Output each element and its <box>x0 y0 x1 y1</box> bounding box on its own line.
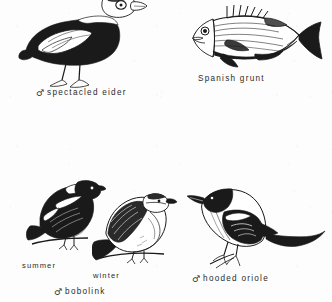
figure-bobolink-winter <box>92 176 178 272</box>
male-symbol-icon: ♂ <box>54 288 62 297</box>
male-symbol-icon: ♂ <box>36 89 44 98</box>
caption-bobolink-summer: summer <box>22 262 56 270</box>
caption-text-bobolink: bobolink <box>65 287 106 296</box>
caption-hooded-oriole: ♂hooded oriole <box>192 274 269 283</box>
figure-spectacled-eider <box>18 0 148 88</box>
caption-text-eider: spectacled eider <box>47 88 127 97</box>
caption-spanish-grunt: Spanish grunt <box>198 75 265 83</box>
figure-hooded-oriole <box>186 176 326 270</box>
male-symbol-icon: ♂ <box>192 275 200 284</box>
figure-spanish-grunt <box>183 4 323 72</box>
caption-text-grunt: Spanish grunt <box>198 74 265 83</box>
caption-bobolink: ♂bobolink <box>54 287 106 296</box>
caption-spectacled-eider: ♂spectacled eider <box>36 88 127 97</box>
illustration-plate: ♂spectacled eider <box>0 0 332 302</box>
caption-text-oriole: hooded oriole <box>203 274 269 283</box>
caption-bobolink-winter: winter <box>93 272 120 280</box>
